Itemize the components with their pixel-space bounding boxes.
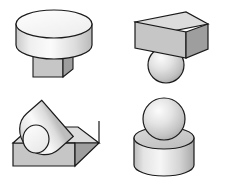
box-slab [135, 12, 208, 58]
panel-disc-on-box [0, 0, 112, 93]
panel-box-on-sphere [113, 0, 225, 93]
panel-sphere-on-cylinder [113, 93, 225, 186]
shape-figure-canvas [0, 0, 225, 186]
cylinder-near-cap [23, 125, 49, 153]
sphere-outline [143, 98, 185, 140]
box-right-face [186, 24, 208, 58]
panel-cylinder-on-box-diagonal [0, 93, 112, 186]
flat-cylinder [16, 10, 92, 59]
sphere [143, 98, 185, 140]
cylinder-top-ellipse [16, 10, 92, 38]
